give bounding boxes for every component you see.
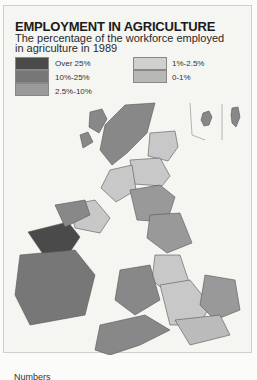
legend-swatch-over-25	[15, 57, 49, 70]
legend-label: Over 25%	[55, 59, 91, 68]
footer-text: Numbers	[14, 372, 51, 380]
british-isles-map	[0, 95, 257, 355]
legend-swatch-10-25	[15, 70, 49, 83]
legend-swatch-0-1	[133, 70, 167, 83]
legend-label: 10%-25%	[55, 73, 90, 82]
map-subtitle: The percentage of the workforce employed…	[15, 33, 235, 53]
legend-swatch-1-2-5	[133, 57, 167, 70]
legend-label: 0-1%	[172, 73, 191, 82]
legend-label: 1%-2.5%	[172, 59, 204, 68]
